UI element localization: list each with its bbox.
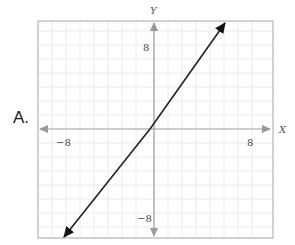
x-tick-neg8: −8 xyxy=(56,137,71,148)
graphed-line xyxy=(150,23,225,129)
x-axis-label: X xyxy=(278,124,287,135)
x-tick-8: 8 xyxy=(247,137,253,148)
coordinate-graph: X Y −8 8 8 −8 xyxy=(0,0,295,245)
y-axis-label: Y xyxy=(150,5,158,16)
y-tick-neg8: −8 xyxy=(137,213,152,224)
y-tick-8: 8 xyxy=(143,42,149,53)
